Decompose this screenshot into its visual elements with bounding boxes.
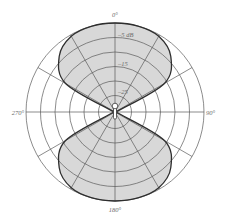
angle-label-270: 270° bbox=[12, 109, 25, 116]
angle-label-180: 180° bbox=[109, 206, 122, 213]
angle-label-90: 90° bbox=[206, 109, 216, 116]
ring-label-minus-15: –15 bbox=[117, 60, 129, 67]
polar-pattern-figure: 0° 90° 180° 270° –5 dB –15 –25 bbox=[0, 0, 226, 217]
polar-chart: 0° 90° 180° 270° –5 dB –15 –25 bbox=[0, 0, 226, 217]
angle-label-0: 0° bbox=[112, 11, 118, 18]
ring-label-minus-25: –25 bbox=[117, 88, 129, 95]
ring-label-minus-5: –5 dB bbox=[117, 31, 133, 38]
